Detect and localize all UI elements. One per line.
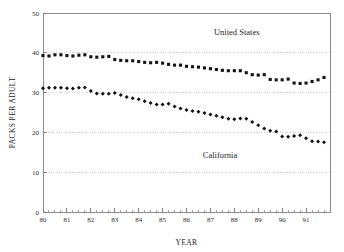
data-point-marker <box>71 87 75 91</box>
data-point-marker <box>167 102 171 106</box>
data-point-marker <box>203 66 206 69</box>
data-point-marker <box>179 107 183 111</box>
data-point-marker <box>233 69 236 72</box>
data-point-marker <box>293 82 296 85</box>
data-point-marker <box>221 69 224 72</box>
data-point-marker <box>125 59 128 62</box>
data-point-marker <box>262 126 266 130</box>
data-point-marker <box>244 117 248 121</box>
x-axis-tick-labels: 808182838485868788899091 <box>40 216 311 224</box>
data-point-marker <box>250 120 254 124</box>
data-point-marker <box>208 112 212 116</box>
y-tick-label: 40 <box>32 49 40 57</box>
data-point-marker <box>101 55 104 58</box>
data-point-marker <box>209 67 212 70</box>
data-point-marker <box>41 86 45 90</box>
series-california <box>41 85 326 144</box>
data-point-marker <box>196 110 200 114</box>
series-united-states <box>41 53 325 85</box>
data-point-marker <box>263 73 266 76</box>
data-point-marker <box>77 54 80 57</box>
data-point-marker <box>232 117 236 121</box>
data-point-marker <box>65 86 69 90</box>
data-point-marker <box>298 133 302 137</box>
x-tick-label: 89 <box>255 216 263 224</box>
data-point-marker <box>143 99 147 103</box>
data-point-marker <box>155 61 158 64</box>
data-point-marker <box>119 59 122 62</box>
data-point-marker <box>280 134 284 138</box>
packs-per-adult-line-chart: 01020304050 808182838485868788899091 Uni… <box>0 0 344 252</box>
series-annotations: United StatesCalifornia <box>203 27 260 160</box>
data-point-marker <box>190 109 194 113</box>
data-point-marker <box>47 86 51 90</box>
data-point-marker <box>149 101 153 105</box>
data-point-marker <box>322 76 325 79</box>
data-point-marker <box>227 69 230 72</box>
data-point-marker <box>322 140 326 144</box>
data-point-marker <box>316 140 320 144</box>
data-point-marker <box>304 136 308 140</box>
y-tick-label: 30 <box>32 89 40 97</box>
data-point-marker <box>101 92 105 96</box>
data-point-marker <box>286 135 290 139</box>
data-point-marker <box>137 97 141 101</box>
x-tick-label: 91 <box>303 216 311 224</box>
data-point-marker <box>83 85 87 89</box>
data-point-marker <box>257 74 260 77</box>
x-tick-label: 88 <box>231 216 239 224</box>
data-point-marker <box>107 92 111 96</box>
data-point-marker <box>251 73 254 76</box>
x-tick-label: 83 <box>111 216 119 224</box>
data-point-marker <box>107 55 110 58</box>
data-point-marker <box>215 68 218 71</box>
y-axis-title: PACKS PER ADULT <box>8 77 17 148</box>
data-point-marker <box>179 64 182 67</box>
data-point-marker <box>316 78 319 81</box>
data-point-marker <box>197 66 200 69</box>
data-point-marker <box>113 91 117 95</box>
data-point-marker <box>131 59 134 62</box>
data-point-marker <box>256 123 260 127</box>
chart-figure: 01020304050 808182838485868788899091 Uni… <box>0 0 344 252</box>
data-point-marker <box>143 61 146 64</box>
series-label-united-states: United States <box>214 27 260 37</box>
data-point-marker <box>53 86 57 90</box>
data-point-marker <box>274 130 278 134</box>
y-axis-ticks <box>43 13 47 212</box>
data-point-marker <box>245 71 248 74</box>
data-point-marker <box>89 89 93 93</box>
data-point-marker <box>47 54 50 57</box>
data-point-marker <box>77 86 81 90</box>
data-point-marker <box>161 62 164 65</box>
x-axis-title: YEAR <box>175 238 197 247</box>
data-point-marker <box>59 53 62 56</box>
data-point-marker <box>131 96 135 100</box>
x-tick-label: 82 <box>87 216 95 224</box>
data-point-marker <box>185 65 188 68</box>
data-point-marker <box>268 129 272 133</box>
data-point-marker <box>238 116 242 120</box>
y-tick-label: 10 <box>32 169 40 177</box>
gridlines <box>43 53 330 172</box>
data-point-marker <box>226 117 230 121</box>
data-point-marker <box>287 78 290 81</box>
x-tick-label: 80 <box>40 216 48 224</box>
data-point-marker <box>41 54 44 57</box>
data-point-marker <box>113 58 116 61</box>
data-point-marker <box>149 61 152 64</box>
data-point-marker <box>292 134 296 138</box>
data-point-marker <box>214 114 218 118</box>
y-tick-label: 50 <box>32 10 40 18</box>
data-point-marker <box>53 53 56 56</box>
axes-frame <box>43 13 330 212</box>
data-point-marker <box>299 82 302 85</box>
x-tick-label: 84 <box>135 216 143 224</box>
data-point-marker <box>65 54 68 57</box>
data-point-marker <box>202 111 206 115</box>
data-point-marker <box>137 60 140 63</box>
x-tick-label: 87 <box>207 216 215 224</box>
data-point-marker <box>310 139 314 143</box>
data-point-marker <box>269 78 272 81</box>
data-point-marker <box>167 63 170 66</box>
